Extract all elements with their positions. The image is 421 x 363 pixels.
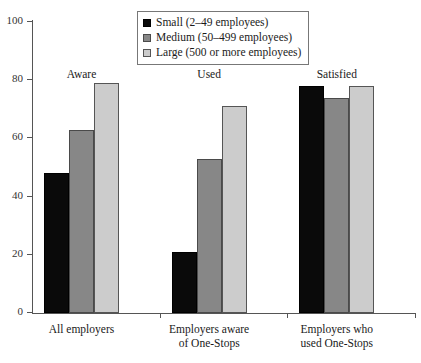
y-axis-tick: 20 xyxy=(27,254,32,255)
bar-large-group-3 xyxy=(349,86,374,313)
y-axis-tick-label: 20 xyxy=(12,246,23,261)
y-axis-tick-label: 0 xyxy=(18,304,24,319)
y-axis-tick: 60 xyxy=(27,137,32,138)
x-axis-tick xyxy=(415,313,416,318)
plot-area: 020406080100 xyxy=(32,22,415,313)
x-axis-category-label: Employers whoused One-Stops xyxy=(267,322,407,350)
bar-small-group-1 xyxy=(44,173,69,313)
y-axis-tick-label: 40 xyxy=(12,188,23,203)
x-axis-category-line: Employers aware xyxy=(139,322,279,336)
y-axis-tick-label: 60 xyxy=(12,129,23,144)
x-axis-category-line: used One-Stops xyxy=(267,336,407,350)
group-heading-used: Used xyxy=(149,68,269,81)
bar-large-group-1 xyxy=(94,83,119,313)
x-axis-category-label: All employers xyxy=(12,322,152,336)
bar-medium-group-3 xyxy=(324,98,349,313)
bar-large-group-2 xyxy=(222,106,247,313)
bar-small-group-3 xyxy=(299,86,324,313)
y-axis-tick: 40 xyxy=(27,196,32,197)
x-axis-category-line: Employers who xyxy=(267,322,407,336)
y-axis-tick: 100 xyxy=(27,21,32,22)
x-axis-tick xyxy=(160,313,161,318)
bar-medium-group-1 xyxy=(69,130,94,313)
group-heading-satisfied: Satisfied xyxy=(277,68,397,81)
x-axis-category-line: of One-Stops xyxy=(139,336,279,350)
x-axis-category-label: Employers awareof One-Stops xyxy=(139,322,279,350)
x-axis-tick xyxy=(287,313,288,318)
bar-medium-group-2 xyxy=(197,159,222,313)
y-axis-tick-label: 100 xyxy=(7,13,24,28)
y-axis-tick: 0 xyxy=(27,312,32,313)
bar-small-group-2 xyxy=(172,252,197,313)
x-axis-line xyxy=(32,313,416,314)
x-axis-category-line: All employers xyxy=(12,322,152,336)
group-heading-aware: Aware xyxy=(22,68,142,81)
bar-chart: Small (2–49 employees) Medium (50–499 em… xyxy=(0,0,421,363)
